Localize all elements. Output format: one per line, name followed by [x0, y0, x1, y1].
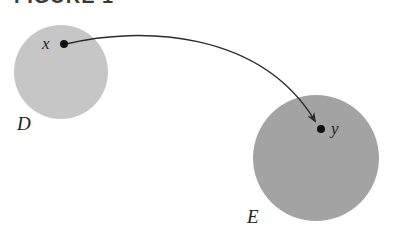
set-d-label: D [16, 113, 31, 134]
mapping-diagram: x y D E [0, 0, 396, 235]
point-y-dot [317, 125, 325, 133]
set-e-disc [253, 95, 379, 221]
point-y-label: y [329, 119, 339, 138]
point-x-label: x [41, 34, 50, 53]
set-e-label: E [246, 206, 259, 227]
point-x-dot [60, 40, 68, 48]
